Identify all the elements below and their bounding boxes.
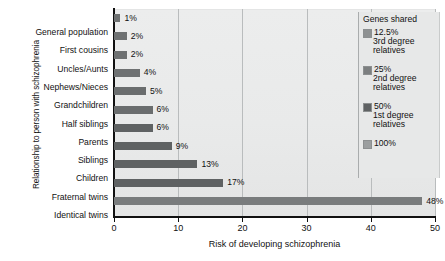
x-tick-label-50: 50 [430,223,440,233]
bar-value-label: 5% [150,87,162,96]
bar-value-label: 6% [157,123,169,132]
legend-swatch [363,140,372,149]
legend-title: Genes shared [363,14,417,24]
bar-value-label: 1% [124,14,136,23]
bar-value-label: 2% [131,50,143,59]
legend-swatch [363,103,372,112]
x-tick-40 [371,218,372,222]
category-label-column: General populationFirst cousinsUncles/Au… [8,14,110,216]
category-label: Fraternal twins [52,192,108,202]
legend-line2: relatives [373,119,405,129]
x-tick-label-20: 20 [237,223,247,233]
bar-value-label: 2% [131,32,143,41]
x-tick-label-30: 30 [302,223,312,233]
category-label: Identical twins [54,210,108,220]
bar-grandchildren [114,87,146,95]
category-label: Half siblings [62,119,108,129]
bar-value-label: 17% [227,178,244,187]
category-label: Uncles/Aunts [57,64,108,74]
x-tick-label-40: 40 [366,223,376,233]
plot-top-edge [114,9,435,10]
legend-swatch [363,29,372,38]
x-tick-label-10: 10 [173,223,183,233]
category-label: Parents [78,137,108,147]
legend-line2: relatives [373,45,405,55]
bar-identical-twins [114,197,422,205]
bar-parents [114,124,153,132]
legend-line2: relatives [373,82,405,92]
x-tick-50 [435,218,436,222]
bar-value-label: 6% [157,105,169,114]
category-label: Nephews/Nieces [44,82,108,92]
bar-nephews-nieces [114,69,140,77]
x-tick-30 [307,218,308,222]
category-label: First cousins [60,45,108,55]
bar-half-siblings [114,106,153,114]
bar-value-label: 4% [144,68,156,77]
bar-value-label: 48% [426,197,443,206]
legend-box: Genes shared 12.5%3rd degreerelatives25%… [358,12,440,178]
bar-uncles-aunts [114,51,127,59]
category-label: General population [35,27,108,37]
schizophrenia-risk-bar-chart: Relationship to person with schizophreni… [0,0,445,261]
x-tick-10 [178,218,179,222]
x-tick-20 [242,218,243,222]
gridline-30 [307,9,308,216]
x-tick-label-0: 0 [111,223,116,233]
bar-siblings [114,142,172,150]
bar-first-cousins [114,32,127,40]
bar-fraternal-twins [114,179,223,187]
x-tick-0 [114,218,115,222]
category-label: Grandchildren [54,100,108,110]
x-axis-title: Risk of developing schizophrenia [114,239,435,249]
bar-general-population [114,14,120,22]
x-axis-line [113,216,436,218]
bar-value-label: 13% [201,160,218,169]
legend-swatch [363,66,372,75]
bar-value-label: 9% [176,142,188,151]
bar-children [114,160,197,168]
category-label: Children [76,173,108,183]
category-label: Siblings [78,155,108,165]
legend-percent: 100% [374,138,396,148]
